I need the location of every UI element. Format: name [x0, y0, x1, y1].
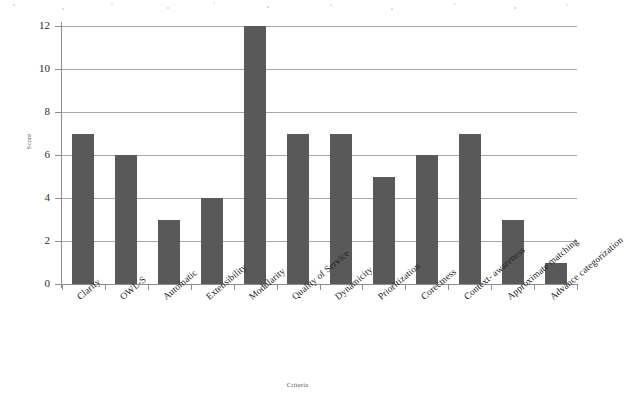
plot-area — [62, 26, 577, 284]
gridline — [62, 26, 577, 27]
x-tick-mark — [491, 285, 492, 290]
gridline — [62, 198, 577, 199]
y-tick-mark — [55, 284, 62, 285]
x-tick-mark — [105, 285, 106, 290]
y-tick-label: 10 — [26, 63, 50, 74]
y-tick-label: 2 — [26, 235, 50, 246]
bar — [373, 177, 395, 285]
y-tick-label: 0 — [26, 278, 50, 289]
y-tick-mark — [55, 69, 62, 70]
x-tick-mark — [191, 285, 192, 290]
bar — [459, 134, 481, 285]
bar — [287, 134, 309, 285]
scan-noise-artifact — [0, 0, 595, 14]
bar — [201, 198, 223, 284]
gridline — [62, 112, 577, 113]
y-tick-label: 4 — [26, 192, 50, 203]
x-axis-title: Criteria — [0, 381, 595, 388]
x-tick-mark — [62, 285, 63, 290]
x-tick-mark — [234, 285, 235, 290]
gridline — [62, 241, 577, 242]
y-tick-mark — [55, 26, 62, 27]
y-tick-mark — [55, 155, 62, 156]
y-tick-label: 12 — [26, 20, 50, 31]
x-tick-mark — [405, 285, 406, 290]
gridline — [62, 155, 577, 156]
x-tick-mark — [577, 285, 578, 290]
y-tick-label: 6 — [26, 149, 50, 160]
y-tick-mark — [55, 112, 62, 113]
bar — [158, 220, 180, 285]
bar — [72, 134, 94, 285]
x-tick-mark — [534, 285, 535, 290]
x-tick-mark — [320, 285, 321, 290]
gridline — [62, 69, 577, 70]
y-tick-mark — [55, 241, 62, 242]
bar — [244, 26, 266, 284]
bar — [115, 155, 137, 284]
x-tick-mark — [448, 285, 449, 290]
x-tick-mark — [362, 285, 363, 290]
x-tick-mark — [277, 285, 278, 290]
y-tick-label: 8 — [26, 106, 50, 117]
x-tick-mark — [148, 285, 149, 290]
y-tick-mark — [55, 198, 62, 199]
